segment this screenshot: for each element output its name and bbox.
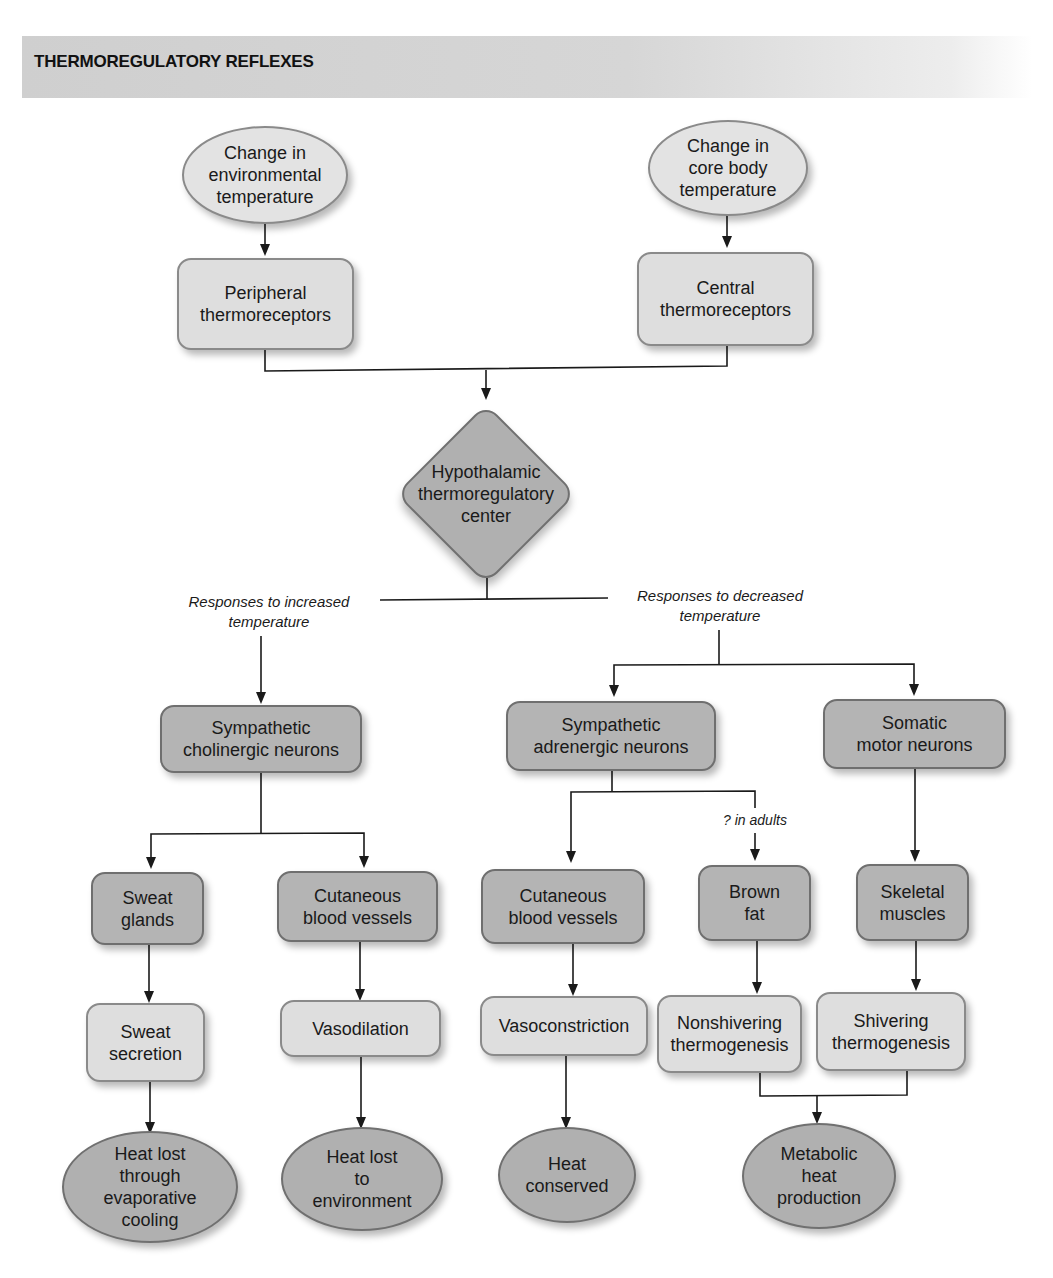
node-nonshivering-thermogenesis: Nonshivering thermogenesis (657, 995, 802, 1073)
node-peripheral-thermoreceptors: Peripheral thermoreceptors (177, 258, 354, 350)
node-sweat-secretion: Sweat secretion (86, 1003, 205, 1082)
node-cutaneous-vessels-warm: Cutaneous blood vessels (277, 871, 438, 942)
node-sympathetic-adrenergic: Sympathetic adrenergic neurons (506, 701, 716, 771)
node-sweat-glands: Sweat glands (91, 872, 204, 945)
node-vasoconstriction: Vasoconstriction (480, 996, 648, 1056)
node-somatic-motor: Somatic motor neurons (823, 699, 1006, 769)
label-increased-temperature: Responses to increased temperature (166, 592, 372, 632)
node-brown-fat: Brown fat (698, 865, 811, 941)
node-cutaneous-vessels-cold: Cutaneous blood vessels (481, 869, 645, 944)
hypothalamic-label: Hypothalamic thermoregulatory center (396, 404, 576, 584)
node-heat-conserved: Heat conserved (498, 1127, 636, 1223)
node-core-temperature: Change in core body temperature (648, 120, 808, 216)
node-skeletal-muscles: Skeletal muscles (856, 864, 969, 941)
node-hypothalamic-center: Hypothalamic thermoregulatory center (396, 404, 576, 584)
node-central-thermoreceptors: Central thermoreceptors (637, 252, 814, 346)
node-heat-lost-evaporative: Heat lost through evaporative cooling (62, 1131, 238, 1243)
node-metabolic-heat-production: Metabolic heat production (742, 1123, 896, 1229)
label-decreased-temperature: Responses to decreased temperature (612, 586, 828, 626)
node-heat-lost-environment: Heat lost to environment (281, 1127, 443, 1231)
node-env-temperature: Change in environmental temperature (182, 126, 348, 224)
label-in-adults: ? in adults (702, 810, 808, 830)
node-shivering-thermogenesis: Shivering thermogenesis (816, 992, 966, 1071)
node-sympathetic-cholinergic: Sympathetic cholinergic neurons (160, 705, 362, 773)
connector-lines (0, 0, 1053, 1278)
node-vasodilation: Vasodilation (280, 1000, 441, 1057)
